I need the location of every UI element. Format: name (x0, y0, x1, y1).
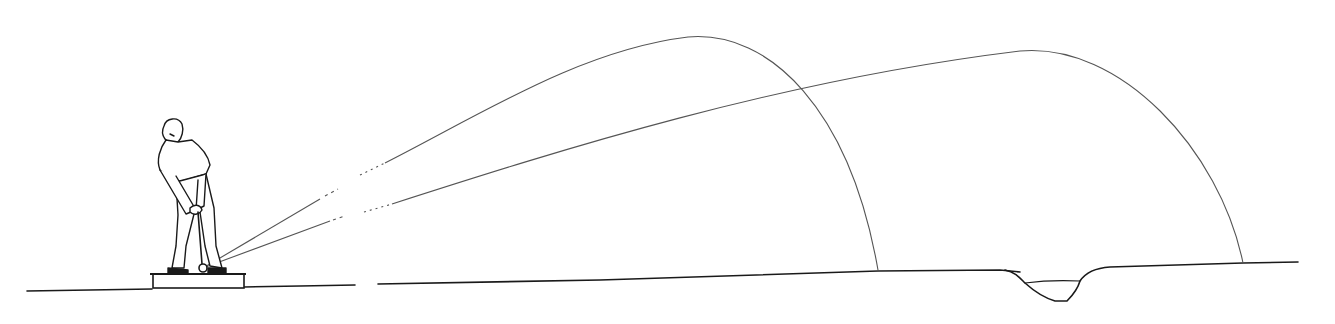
trajectory-low-shot (203, 50, 1243, 268)
hitting-mat (150, 274, 246, 288)
golf-ball (199, 264, 207, 272)
golf-illustration: Golfer hitting two shots with different … (0, 0, 1335, 324)
trajectory-high-shot (203, 37, 878, 270)
golfer-figure (158, 119, 226, 274)
drawing-canvas (0, 0, 1335, 324)
